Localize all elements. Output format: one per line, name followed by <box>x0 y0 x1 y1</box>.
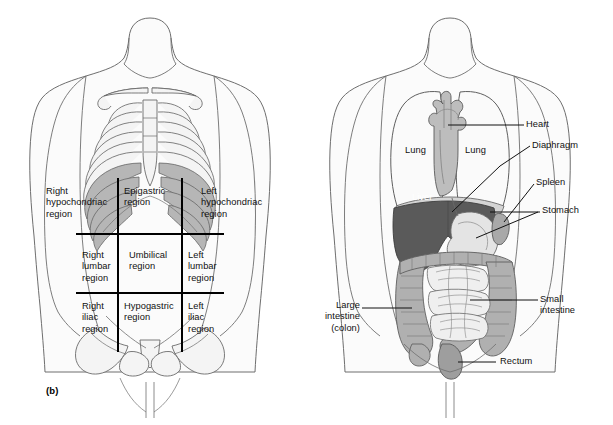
region-label-umbilical: Umbilical region <box>129 250 167 273</box>
organ-label-small-intestine: Small intestine <box>540 294 575 317</box>
region-label-right-lumbar: Right lumbar region <box>82 250 111 284</box>
organ-label-lung-right: Lung <box>405 145 426 156</box>
small-intestine-shape <box>430 313 488 341</box>
region-label-right-iliac: Right iliac region <box>82 301 108 335</box>
anatomy-figure: Right hypochondriac region Epigastric re… <box>0 0 613 425</box>
organ-label-rectum: Rectum <box>500 356 532 367</box>
organ-label-large-intestine: Large intestine (colon) <box>300 300 360 334</box>
region-label-hypogastric: Hypogastric region <box>124 301 174 324</box>
organ-label-liver: Liver <box>412 192 432 203</box>
region-label-left-iliac: Left iliac region <box>188 301 214 335</box>
panel-b-caption: (b) <box>46 385 59 396</box>
region-label-right-hypochondriac: Right hypochondriac region <box>46 186 107 220</box>
organ-label-diaphragm: Diaphragm <box>532 140 578 151</box>
region-label-epigastric: Epigastric region <box>124 186 165 209</box>
region-label-left-lumbar: Left lumbar region <box>188 250 217 284</box>
organ-label-spleen: Spleen <box>536 177 565 188</box>
organ-label-stomach: Stomach <box>542 205 579 216</box>
organ-label-heart: Heart <box>526 119 549 130</box>
organ-label-lung-left: Lung <box>465 145 486 156</box>
panel-b-abdominal-regions: Right hypochondriac region Epigastric re… <box>0 0 300 425</box>
region-label-left-hypochondriac: Left hypochondriac region <box>201 186 262 220</box>
panel-c-abdominal-organs: Heart Lung Lung Diaphragm Spleen Stomach… <box>300 0 613 425</box>
